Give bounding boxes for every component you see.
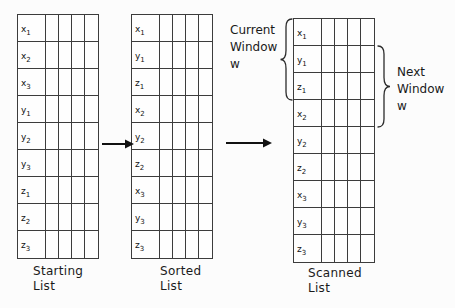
grid-cell	[322, 208, 335, 235]
grid-cell	[199, 177, 212, 204]
grid-cell	[348, 181, 361, 208]
row-label: y3	[135, 213, 145, 223]
row-label-cell: y1	[132, 42, 160, 69]
grid-cell	[72, 42, 85, 69]
row-label-cell: y2	[294, 127, 322, 154]
grid-cell	[335, 73, 348, 100]
grid-cell	[186, 15, 199, 42]
grid-cell	[46, 177, 59, 204]
caption-line: Scanned	[308, 266, 362, 281]
grid-cell	[199, 123, 212, 150]
row-label-cell: z3	[294, 235, 322, 262]
caption-line: List	[308, 281, 362, 296]
window-label-line: Window	[397, 81, 444, 98]
grid-cell	[361, 127, 374, 154]
grid-cell	[173, 42, 186, 69]
grid-cell	[322, 154, 335, 181]
row-label-cell: z3	[18, 231, 46, 258]
grid-cell	[173, 15, 186, 42]
grid-cell	[85, 231, 98, 258]
row-label: x2	[21, 51, 31, 61]
row-label-cell: y1	[294, 46, 322, 73]
grid-cell	[199, 15, 212, 42]
grid-cell	[361, 73, 374, 100]
grid-cell	[72, 150, 85, 177]
row-label-cell: z2	[132, 150, 160, 177]
grid-cell	[335, 154, 348, 181]
grid-cell	[160, 150, 173, 177]
grid-cell	[72, 96, 85, 123]
grid-cell	[186, 177, 199, 204]
grid-cell	[348, 127, 361, 154]
grid-cell	[322, 73, 335, 100]
grid-cell	[85, 69, 98, 96]
grid-cell	[199, 69, 212, 96]
grid-cell	[59, 15, 72, 42]
grid-cell	[173, 150, 186, 177]
row-label-cell: y3	[18, 150, 46, 177]
next-window-brace-icon	[376, 45, 392, 128]
row-label-cell: x1	[132, 15, 160, 42]
caption-line: List	[160, 279, 201, 294]
scanned-list-caption: Scanned List	[308, 266, 362, 295]
grid-cell	[59, 231, 72, 258]
row-label: y1	[21, 105, 31, 115]
grid-cell	[160, 42, 173, 69]
row-label: z2	[297, 163, 306, 173]
grid-cell	[186, 150, 199, 177]
grid-cell	[59, 150, 72, 177]
row-label-cell: z1	[132, 69, 160, 96]
grid-cell	[160, 123, 173, 150]
grid-cell	[59, 123, 72, 150]
next-window-label: Next Window w	[397, 64, 444, 115]
grid-cell	[46, 96, 59, 123]
row-label: x3	[297, 190, 307, 200]
grid-cell	[85, 204, 98, 231]
grid-cell	[186, 96, 199, 123]
starting-list-table: x1x2x3y1y2y3z1z2z3	[17, 14, 99, 259]
row-label: z1	[297, 82, 306, 92]
grid-cell	[186, 69, 199, 96]
row-label: y3	[297, 217, 307, 227]
diagram-canvas: x1x2x3y1y2y3z1z2z3 x1y1z1x2y2z2x3y3z3 x1…	[0, 0, 455, 308]
row-label: x3	[21, 78, 31, 88]
sorted-list-table: x1y1z1x2y2z2x3y3z3	[131, 14, 213, 259]
grid-cell	[72, 177, 85, 204]
grid-cell	[199, 150, 212, 177]
grid-cell	[361, 46, 374, 73]
grid-cell	[72, 69, 85, 96]
grid-cell	[322, 181, 335, 208]
grid-cell	[85, 15, 98, 42]
grid-cell	[361, 181, 374, 208]
row-label: z1	[135, 78, 144, 88]
grid-cell	[72, 123, 85, 150]
grid-cell	[348, 46, 361, 73]
row-label: x3	[135, 186, 145, 196]
grid-cell	[186, 42, 199, 69]
sorted-list-caption: Sorted List	[160, 264, 201, 293]
grid-cell	[85, 177, 98, 204]
window-label-line: Window	[230, 39, 277, 56]
row-label: z3	[297, 244, 306, 254]
row-label: z1	[21, 186, 30, 196]
row-label: y1	[297, 55, 307, 65]
grid-cell	[348, 73, 361, 100]
caption-line: List	[33, 279, 83, 294]
grid-cell	[46, 150, 59, 177]
grid-cell	[46, 123, 59, 150]
grid-cell	[199, 231, 212, 258]
row-label: x2	[135, 105, 145, 115]
grid-cell	[361, 235, 374, 262]
row-label-cell: x3	[132, 177, 160, 204]
row-label-cell: z1	[18, 177, 46, 204]
grid-cell	[59, 96, 72, 123]
grid-cell	[348, 208, 361, 235]
grid-cell	[160, 15, 173, 42]
current-window-brace-icon	[279, 18, 293, 101]
grid-cell	[186, 204, 199, 231]
window-label-line: w	[397, 98, 444, 115]
window-label-line: Current	[230, 22, 277, 39]
row-label-cell: y1	[18, 96, 46, 123]
window-label-line: Next	[397, 64, 444, 81]
grid-cell	[335, 46, 348, 73]
